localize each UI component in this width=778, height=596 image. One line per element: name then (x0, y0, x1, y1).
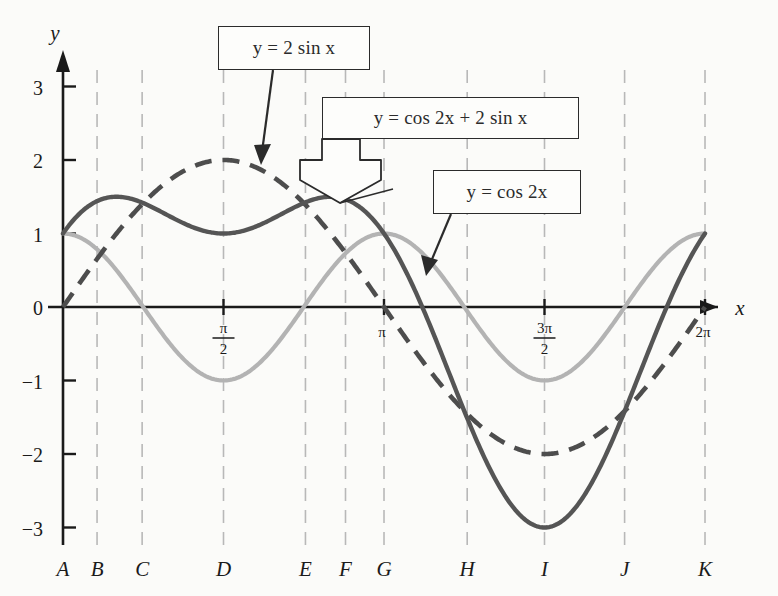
bottom-letter-c: C (135, 557, 150, 581)
y-tick-label: 0 (33, 297, 43, 319)
bottom-letter-f: F (338, 557, 352, 581)
bottom-letter-a: A (55, 557, 70, 581)
callout-label-sum: y = cos 2x + 2 sin x (322, 97, 579, 139)
y-tick-label: −1 (22, 371, 43, 393)
x-tick-label-numerator: 3π (537, 320, 553, 336)
bottom-letter-j: J (620, 557, 631, 581)
bottom-axis-letters: ABCDEFGHIJK (55, 557, 713, 581)
y-axis-label: y (48, 21, 60, 45)
pointer-line-cos2x (430, 214, 451, 264)
x-tick-label: 2π (695, 324, 711, 340)
bottom-letter-i: I (540, 557, 549, 581)
y-axis-arrowhead (56, 50, 70, 72)
trig-functions-plot: 3210−1−2−3 π2π3π22π y x ABCDEFGHIJK (0, 0, 778, 596)
y-tick-label: −2 (22, 444, 43, 466)
callout-label-cos-2x: y = cos 2x (433, 170, 581, 214)
x-tick-label-numerator: π (220, 320, 228, 336)
bottom-letter-h: H (459, 557, 477, 581)
pointer-block-arrow-sum (300, 139, 381, 203)
chart-canvas: 3210−1−2−3 π2π3π22π y x ABCDEFGHIJK y = (0, 0, 778, 596)
x-tick-label: π (378, 324, 386, 340)
x-axis-label: x (734, 296, 745, 320)
y-tick-label: 3 (33, 77, 43, 99)
y-tick-label: −3 (22, 518, 43, 540)
callout-label-2-sin-x: y = 2 sin x (218, 26, 370, 70)
pointer-line-2sinx (262, 70, 273, 152)
bottom-letter-d: D (215, 557, 231, 581)
x-tick-label-denominator: 2 (220, 341, 228, 357)
bottom-letter-e: E (298, 557, 312, 581)
y-tick-label: 2 (33, 150, 43, 172)
x-tick-label-denominator: 2 (541, 341, 549, 357)
bottom-letter-g: G (376, 557, 391, 581)
bottom-letter-k: K (697, 557, 713, 581)
y-tick-label: 1 (33, 224, 43, 246)
pointer-arrowhead-2sinx (254, 144, 271, 165)
bottom-letter-b: B (91, 557, 104, 581)
